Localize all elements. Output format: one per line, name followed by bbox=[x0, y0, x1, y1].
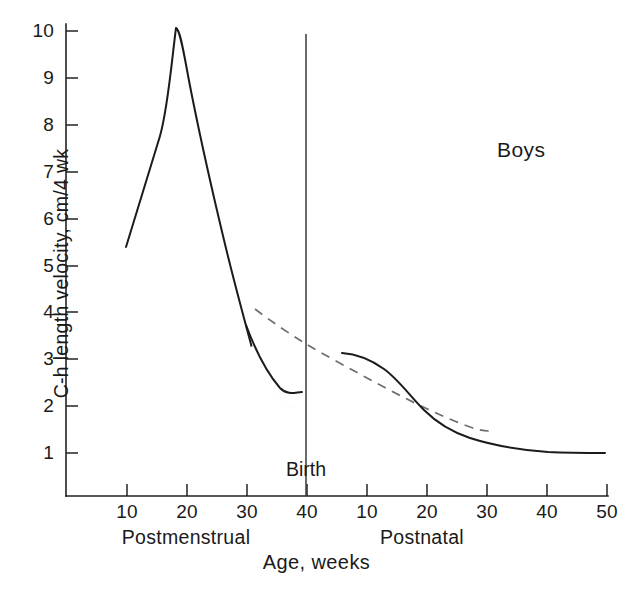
x-tick-label-postnatal-50: 50 bbox=[596, 501, 618, 523]
x-tick-label-postmenstrual-10: 10 bbox=[116, 501, 138, 523]
x-tick-marks bbox=[127, 484, 607, 496]
y-tick-label-1: 1 bbox=[14, 442, 54, 464]
y-axis-title: C-h length velocity, cm/4 wk bbox=[50, 109, 73, 439]
x-tick-label-postnatal-20: 20 bbox=[416, 501, 438, 523]
y-tick-label-4: 4 bbox=[14, 301, 54, 323]
x-segment-label-postnatal: Postnatal bbox=[380, 526, 464, 549]
y-tick-label-3: 3 bbox=[14, 348, 54, 370]
x-tick-label-postmenstrual-30: 30 bbox=[236, 501, 258, 523]
curve-postnatal-solid bbox=[342, 353, 605, 453]
y-tick-label-6: 6 bbox=[14, 208, 54, 230]
x-tick-label-postmenstrual-20: 20 bbox=[176, 501, 198, 523]
y-tick-label-9: 9 bbox=[14, 67, 54, 89]
y-tick-label-2: 2 bbox=[14, 395, 54, 417]
x-tick-label-postnatal-10: 10 bbox=[356, 501, 378, 523]
x-segment-label-postmenstrual: Postmenstrual bbox=[122, 526, 251, 549]
x-tick-label-postmenstrual-40: 40 bbox=[296, 501, 318, 523]
curve-dashed-extrapolation bbox=[255, 309, 490, 431]
x-tick-label-postnatal-40: 40 bbox=[536, 501, 558, 523]
x-axis-title: Age, weeks bbox=[0, 551, 633, 574]
curve-postmenstrual-solid bbox=[126, 28, 302, 408]
growth-velocity-chart: 10 9 8 7 6 5 4 3 2 1 10 20 30 40 10 20 3… bbox=[0, 0, 633, 590]
x-tick-label-postnatal-30: 30 bbox=[476, 501, 498, 523]
y-tick-label-10: 10 bbox=[14, 20, 54, 42]
series-annotation-boys: Boys bbox=[497, 138, 545, 162]
birth-marker-label: Birth bbox=[286, 458, 326, 481]
y-tick-label-5: 5 bbox=[14, 255, 54, 277]
y-tick-label-8: 8 bbox=[14, 114, 54, 136]
y-tick-label-7: 7 bbox=[14, 161, 54, 183]
